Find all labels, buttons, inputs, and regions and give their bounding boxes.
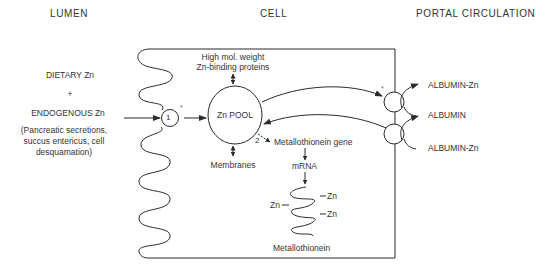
brush-border-membrane <box>138 49 172 258</box>
portal-asterisk: * <box>381 84 384 94</box>
plus-sign: + <box>20 89 120 99</box>
zn-pool-label: Zn POOL <box>205 110 265 120</box>
albumin-zn-bottom-label: ALBUMIN-Zn <box>428 143 479 153</box>
arrow-pool-to-portal <box>262 87 382 102</box>
endogenous-zn-label: ENDOGENOUS Zn <box>12 108 124 118</box>
metallothionein-squiggle <box>290 187 315 236</box>
arrow-portal-to-pool <box>264 115 386 128</box>
carrier-1-asterisk: * <box>180 103 183 113</box>
sources-line-1: (Pancreatic secretions, <box>4 125 124 135</box>
mrna-label: mRNA <box>292 161 317 171</box>
albumin-zn-top-label: ALBUMIN-Zn <box>428 80 479 90</box>
sources-line-2: succus entericus, cell <box>4 136 124 146</box>
high-mol-weight-label-2: Zn-binding proteins <box>183 62 283 72</box>
zn-right-label-1: Zn <box>327 191 337 201</box>
sources-line-3: desquamation) <box>4 147 124 157</box>
header-portal-circulation: PORTAL CIRCULATION <box>416 8 535 19</box>
albumin-label: ALBUMIN <box>428 110 466 120</box>
header-cell: CELL <box>260 8 287 19</box>
header-lumen: LUMEN <box>50 8 88 19</box>
high-mol-weight-label-1: High mol. weight <box>183 52 283 62</box>
step-2-label: 2 <box>255 136 259 146</box>
membranes-label: Membranes <box>203 160 263 170</box>
metallothionein-label: Metallothionein <box>273 243 330 253</box>
metallothionein-gene-label: Metallothionein gene <box>274 137 352 147</box>
carrier-1-label: 1 <box>166 113 170 123</box>
dietary-zn-label: DIETARY Zn <box>20 70 120 80</box>
arrow-step-2 <box>258 134 270 142</box>
albumin-flap-lower-in <box>404 139 416 149</box>
albumin-flap-upper-in <box>404 107 416 116</box>
zn-left-label: Zn <box>270 200 280 210</box>
zn-right-label-2: Zn <box>327 209 337 219</box>
